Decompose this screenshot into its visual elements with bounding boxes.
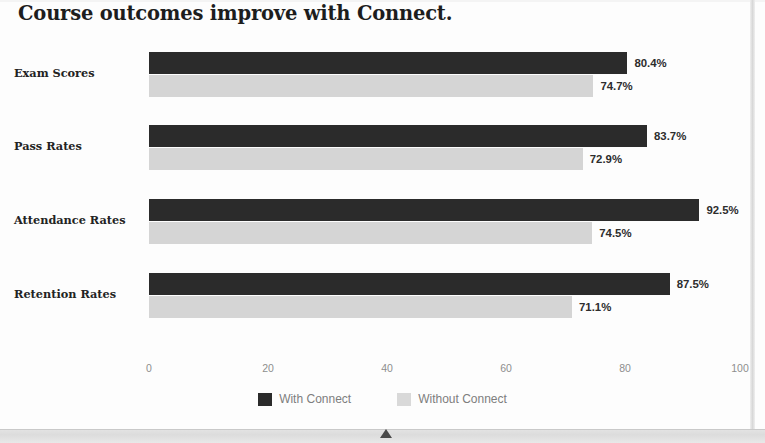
x-axis-tick: 0 [146, 362, 152, 374]
bar-track-without-connect: 74.7% [149, 75, 744, 97]
bar-without-connect[interactable] [149, 222, 592, 244]
bar-value-without-connect: 74.5% [599, 227, 631, 239]
bar-value-with-connect: 80.4% [634, 57, 666, 69]
chart-page: Course outcomes improve with Connect. Ex… [0, 0, 765, 443]
chart-plot-area: Exam Scores 80.4% 74.7% Pass Rates 83.7%… [0, 40, 765, 370]
category-label: Exam Scores [14, 66, 142, 80]
bar-track-with-connect: 92.5% [149, 199, 744, 221]
bar-value-with-connect: 92.5% [706, 204, 738, 216]
bar-value-with-connect: 87.5% [677, 278, 709, 290]
bar-group: Pass Rates 83.7% 72.9% [0, 125, 765, 177]
bar-track-with-connect: 87.5% [149, 273, 744, 295]
bar-track-with-connect: 80.4% [149, 52, 744, 74]
legend-swatch-icon [258, 393, 272, 406]
bar-without-connect[interactable] [149, 148, 583, 170]
bar-track-with-connect: 83.7% [149, 125, 744, 147]
bar-without-connect[interactable] [149, 75, 593, 97]
category-label: Pass Rates [14, 139, 142, 153]
bar-with-connect[interactable] [149, 273, 670, 295]
legend-item-without-connect[interactable]: Without Connect [397, 392, 507, 406]
bar-value-without-connect: 71.1% [579, 301, 611, 313]
bar-with-connect[interactable] [149, 125, 647, 147]
x-axis: 0 20 40 60 80 100 [0, 362, 765, 382]
bar-with-connect[interactable] [149, 199, 699, 221]
bar-with-connect[interactable] [149, 52, 627, 74]
chart-legend: With Connect Without Connect [0, 392, 765, 406]
legend-label: With Connect [279, 392, 351, 406]
bar-value-without-connect: 74.7% [600, 80, 632, 92]
caret-up-icon [380, 429, 392, 438]
bar-group: Attendance Rates 92.5% 74.5% [0, 199, 765, 251]
x-axis-tick: 20 [262, 362, 274, 374]
bar-group: Exam Scores 80.4% 74.7% [0, 52, 765, 104]
vertical-scrollbar[interactable] [750, 0, 755, 429]
legend-swatch-icon [397, 393, 411, 406]
category-label: Attendance Rates [14, 213, 142, 227]
category-label: Retention Rates [14, 287, 142, 301]
bar-track-without-connect: 71.1% [149, 296, 744, 318]
x-axis-tick: 80 [619, 362, 631, 374]
bar-track-without-connect: 74.5% [149, 222, 744, 244]
bar-track-without-connect: 72.9% [149, 148, 744, 170]
legend-item-with-connect[interactable]: With Connect [258, 392, 351, 406]
bar-value-without-connect: 72.9% [590, 153, 622, 165]
x-axis-tick: 60 [500, 362, 512, 374]
bar-value-with-connect: 83.7% [654, 130, 686, 142]
page-title: Course outcomes improve with Connect. [18, 2, 452, 25]
legend-label: Without Connect [418, 392, 507, 406]
bar-group: Retention Rates 87.5% 71.1% [0, 273, 765, 325]
bar-without-connect[interactable] [149, 296, 572, 318]
x-axis-tick: 40 [381, 362, 393, 374]
x-axis-tick: 100 [731, 362, 749, 374]
